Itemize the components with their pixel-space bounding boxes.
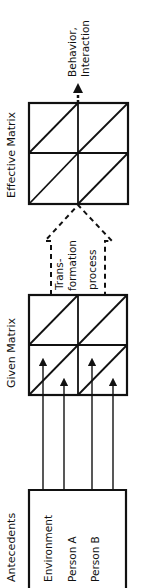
output-behavior: Behavior,: [66, 27, 78, 77]
antecedents-box: Environment Person A Person B: [29, 490, 126, 588]
antecedent-environment: Environment: [42, 515, 54, 582]
transformation-line-3: process: [86, 250, 98, 290]
output-interaction: Interaction: [79, 20, 91, 77]
transformation-line-2: formation: [66, 240, 78, 291]
given-matrix: [29, 295, 127, 395]
antecedent-person-b: Person B: [89, 536, 101, 582]
label-given-matrix: Given Matrix: [5, 318, 18, 388]
label-effective-matrix: Effective Matrix: [5, 111, 18, 198]
interdependence-diagram: Antecedents Given Matrix Effective Matri…: [0, 0, 142, 588]
antecedent-person-a: Person A: [66, 535, 78, 582]
label-antecedents: Antecedents: [5, 513, 18, 582]
output-arrow: Behavior, Interaction: [66, 20, 91, 103]
effective-matrix: [29, 103, 128, 204]
transformation-arrow: Trans- formation process: [45, 205, 112, 295]
transformation-line-1: Trans-: [53, 258, 65, 291]
